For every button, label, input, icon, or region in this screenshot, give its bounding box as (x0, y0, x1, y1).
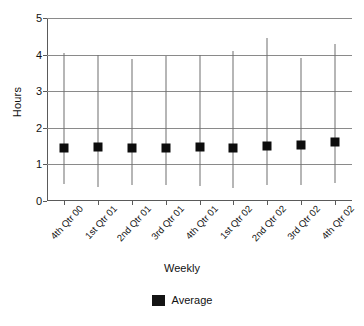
error-bar-whisker (97, 55, 98, 187)
legend-label-average: Average (172, 294, 213, 306)
y-axis-line (47, 18, 48, 201)
y-tick-label-5: 5 (36, 13, 42, 24)
y-tick-label-4: 4 (36, 49, 42, 60)
x-tick-label: 2nd Qtr 01 (114, 203, 153, 243)
y-tick-label-0: 0 (36, 196, 42, 207)
average-marker (59, 144, 68, 153)
x-tick-label: 4th Qtr 02 (319, 203, 356, 241)
average-marker (127, 144, 136, 153)
gridline-y-5 (47, 18, 352, 19)
average-marker (161, 143, 170, 152)
y-tick-mark-4 (43, 55, 47, 56)
chart-legend: Average (0, 294, 364, 306)
y-tick-label-3: 3 (36, 86, 42, 97)
error-bar-whisker (267, 38, 268, 185)
x-tick-label: 4th Qtr 01 (183, 203, 220, 241)
plot-area: 012345 (47, 18, 352, 201)
legend-swatch-average-icon (152, 295, 165, 306)
x-tick-label: 2nd Qtr 02 (249, 203, 288, 243)
y-tick-mark-3 (43, 91, 47, 92)
average-marker (263, 141, 272, 150)
y-tick-mark-2 (43, 128, 47, 129)
y-tick-mark-1 (43, 164, 47, 165)
error-bar-whisker (63, 53, 64, 184)
x-axis-tick-labels: 4th Qtr 001st Qtr 012nd Qtr 013rd Qtr 01… (47, 203, 352, 261)
x-tick-label: 3rd Qtr 02 (285, 203, 322, 242)
average-marker (93, 143, 102, 152)
y-tick-label-2: 2 (36, 122, 42, 133)
y-axis-title: Hours (11, 72, 23, 132)
x-tick-label: 3rd Qtr 01 (149, 203, 186, 242)
error-bar-whisker (335, 44, 336, 183)
x-tick-label: 4th Qtr 00 (48, 203, 85, 241)
average-marker (229, 143, 238, 152)
average-marker (297, 141, 306, 150)
y-tick-label-1: 1 (36, 159, 42, 170)
error-bar-whisker (233, 51, 234, 188)
chart-container: Hours 012345 4th Qtr 001st Qtr 012nd Qtr… (0, 0, 364, 326)
error-bar-whisker (301, 58, 302, 184)
y-tick-mark-5 (43, 18, 47, 19)
error-bar-whisker (165, 56, 166, 186)
error-bar-whisker (131, 59, 132, 185)
error-bar-whisker (199, 55, 200, 187)
y-tick-mark-0 (43, 201, 47, 202)
average-marker (331, 138, 340, 147)
x-axis-title: Weekly (0, 262, 364, 274)
average-marker (195, 143, 204, 152)
